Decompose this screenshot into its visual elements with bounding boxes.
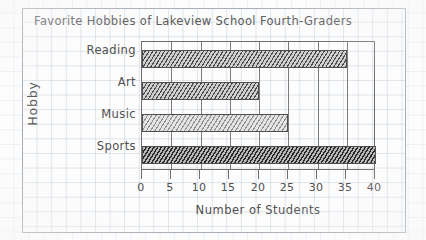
- category-label-art: Art: [16, 75, 136, 89]
- bar-music: [142, 114, 288, 132]
- x-tick-label-0: 0: [128, 181, 154, 194]
- x-tick-label-20: 20: [245, 181, 271, 194]
- x-tick-30: [316, 170, 317, 179]
- bar-reading: [142, 50, 347, 68]
- x-tick-label-25: 25: [274, 181, 300, 194]
- x-tick-0: [141, 170, 142, 179]
- bar-sports: [142, 146, 376, 164]
- x-tick-35: [345, 170, 346, 179]
- category-label-column: Reading Art Music Sports: [12, 41, 136, 170]
- x-tick-label-30: 30: [303, 181, 329, 194]
- x-tick-5: [170, 170, 171, 179]
- x-tick-label-5: 5: [157, 181, 183, 194]
- x-tick-label-15: 15: [215, 181, 241, 194]
- x-tick-25: [287, 170, 288, 179]
- x-tick-label-35: 35: [332, 181, 358, 194]
- x-tick-40: [374, 170, 375, 179]
- x-axis-title: Number of Students: [141, 203, 375, 217]
- screenshot-canvas: Favorite Hobbies of Lakeview School Four…: [0, 0, 426, 240]
- category-label-sports: Sports: [16, 139, 136, 153]
- plot-area: [141, 41, 375, 170]
- x-tick-15: [228, 170, 229, 179]
- category-label-music: Music: [16, 107, 136, 121]
- x-tick-label-10: 10: [186, 181, 212, 194]
- x-tick-label-40: 40: [361, 181, 387, 194]
- category-label-reading: Reading: [16, 43, 136, 57]
- x-tick-10: [199, 170, 200, 179]
- x-tick-20: [258, 170, 259, 179]
- bar-art: [142, 82, 259, 100]
- chart-title: Favorite Hobbies of Lakeview School Four…: [34, 14, 398, 28]
